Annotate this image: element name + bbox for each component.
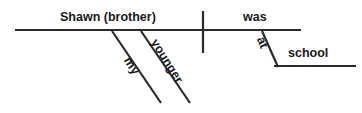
object-of-preposition-label: school — [288, 47, 328, 60]
sentence-diagram: Shawn (brother) was school my younger at — [0, 0, 362, 113]
subject-label: Shawn (brother) — [60, 11, 156, 24]
verb-label: was — [243, 11, 267, 24]
